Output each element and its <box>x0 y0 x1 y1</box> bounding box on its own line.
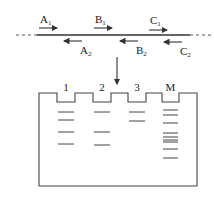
lane-label: 1 <box>63 81 69 93</box>
lane-label: M <box>166 81 176 93</box>
gel-lane: 1 <box>58 81 74 144</box>
primer-label: C2 <box>180 45 191 59</box>
primer-label: A1 <box>40 13 52 27</box>
primer-label: A2 <box>80 44 92 58</box>
gel-lane: 3 <box>129 81 145 121</box>
gel-lane: M <box>163 81 178 158</box>
lane-label: 3 <box>134 81 140 93</box>
lane-label: 2 <box>99 81 105 93</box>
forward-primers: A1B1C1 <box>39 13 167 30</box>
primer-label: B2 <box>136 44 147 58</box>
reverse-primers: A2B2C2 <box>64 41 191 59</box>
pcr-gel-diagram: A1B1C1 A2B2C2 123M <box>0 0 214 202</box>
gel-lane: 2 <box>94 81 110 145</box>
primer-label: B1 <box>95 13 106 27</box>
primer-label: C1 <box>150 14 161 28</box>
